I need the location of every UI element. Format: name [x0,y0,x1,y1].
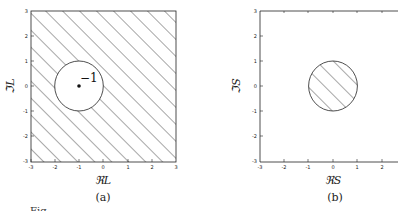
x-axis-label-a: ℜL [95,174,111,187]
svg-text:3: 3 [25,8,28,14]
panel-label-b: (b) [327,191,343,204]
svg-text:2: 2 [380,164,383,170]
svg-text:3: 3 [254,8,257,14]
svg-text:-3: -3 [252,158,257,164]
panel-label-a: (a) [95,191,110,204]
svg-text:0: 0 [25,83,28,89]
svg-text:2: 2 [150,164,153,170]
x-axis-label-b: ℜS [325,174,342,187]
svg-text:-2: -2 [252,133,257,139]
svg-text:0: 0 [101,164,104,170]
svg-text:1: 1 [126,164,129,170]
svg-text:3: 3 [174,164,177,170]
svg-text:1: 1 [254,58,257,64]
annotation-minus-one: −1 [80,71,98,85]
svg-text:-1: -1 [23,108,28,114]
svg-text:1: 1 [25,58,28,64]
svg-text:-3: -3 [29,164,34,170]
svg-text:-3: -3 [23,158,28,164]
svg-text:-2: -2 [53,164,58,170]
svg-text:-3: -3 [258,164,263,170]
svg-text:0: 0 [331,164,334,170]
x-ticks-b: -3 -2 -1 0 1 2 [258,159,384,170]
svg-text:0: 0 [254,83,257,89]
svg-text:-2: -2 [282,164,287,170]
svg-text:2: 2 [254,33,257,39]
y-axis-label-a: ℑL [4,78,17,93]
panel-b: -3 -2 -1 0 1 2 3 2 1 0 -1 -2 -3 ℜS ℑS (b… [230,8,398,204]
hatched-region-inside [305,58,361,114]
y-axis-label-b: ℑS [230,78,243,94]
svg-text:1: 1 [355,164,358,170]
figure: −1 -3 -2 -1 0 1 2 3 3 2 1 0 [0,0,398,211]
svg-text:-1: -1 [77,164,82,170]
svg-text:2: 2 [25,33,28,39]
panel-a: −1 -3 -2 -1 0 1 2 3 3 2 1 0 [4,8,178,204]
svg-text:-1: -1 [252,108,257,114]
y-ticks-b: 3 2 1 0 -1 -2 -3 [252,8,263,164]
svg-text:-2: -2 [23,133,28,139]
svg-text:-1: -1 [306,164,311,170]
caption-fragment: Fig... [30,205,56,211]
